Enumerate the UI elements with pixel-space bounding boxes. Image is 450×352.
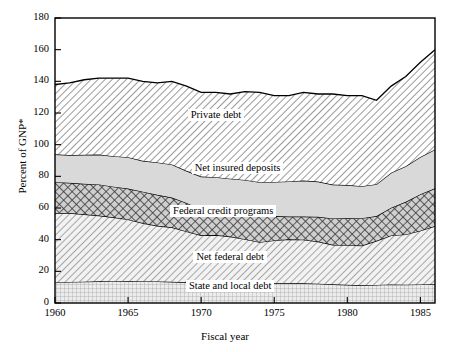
y-tick-label: 180 (19, 11, 49, 22)
y-tick-label: 0 (19, 296, 49, 307)
series-label: Net insured deposits (192, 162, 284, 174)
series-label: Federal credit programs (170, 205, 276, 217)
area-bands (55, 50, 435, 303)
chart-canvas (0, 0, 450, 352)
y-tick-label: 100 (19, 138, 49, 149)
y-tick-label: 80 (19, 169, 49, 180)
y-tick-label: 60 (19, 201, 49, 212)
y-axis-label: Percent of GNP* (16, 101, 28, 211)
y-tick-label: 140 (19, 74, 49, 85)
y-tick-label: 120 (19, 106, 49, 117)
x-tick-label: 1985 (400, 307, 440, 318)
x-tick-label: 1965 (108, 307, 148, 318)
y-tick-label: 40 (19, 233, 49, 244)
series-label: State and local debt (186, 280, 275, 292)
stacked-area-chart: Percent of GNP* Fiscal year 020406080100… (0, 0, 450, 352)
x-tick-label: 1975 (254, 307, 294, 318)
x-tick-label: 1960 (35, 307, 75, 318)
y-tick-label: 20 (19, 264, 49, 275)
series-label: Net federal debt (193, 251, 267, 263)
x-tick-label: 1970 (181, 307, 221, 318)
x-axis-label: Fiscal year (0, 330, 450, 342)
y-tick-label: 160 (19, 43, 49, 54)
x-tick-label: 1980 (327, 307, 367, 318)
series-label: Private debt (188, 109, 244, 121)
